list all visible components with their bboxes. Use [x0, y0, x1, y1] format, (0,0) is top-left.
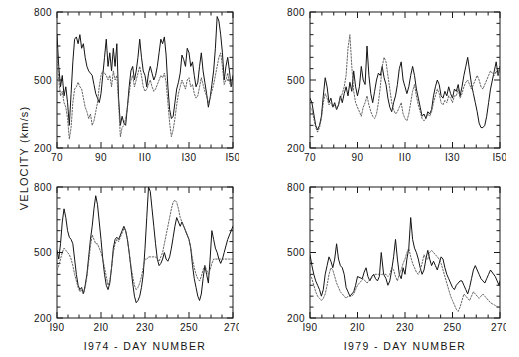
x-tick-label: 230	[136, 322, 154, 333]
panel-top-left: 7090II0I30I50800500200	[23, 6, 239, 168]
y-tick-label: 200	[287, 143, 305, 154]
x-tick-label: 2I0	[93, 322, 108, 333]
panel-bottom-left: I902I0230250270800500200	[23, 181, 239, 338]
panel-bottom-right: I902I0230250270800500200	[276, 181, 506, 338]
x-tick-label: 90	[352, 152, 364, 163]
y-tick-label: 800	[287, 7, 305, 18]
data-layer	[310, 218, 500, 312]
data-layer	[57, 187, 233, 303]
plot-frame	[310, 187, 500, 318]
x-axis-ticks	[310, 12, 500, 148]
y-tick-label: 800	[34, 7, 52, 18]
x-tick-label: I50	[225, 152, 239, 163]
series-line-observed	[57, 17, 233, 126]
y-tick-label: 200	[287, 313, 305, 324]
y-tick-label: 500	[287, 75, 305, 86]
x-tick-label: II0	[139, 152, 151, 163]
x-tick-label: I90	[49, 322, 64, 333]
x-tick-label: I90	[302, 322, 317, 333]
x-tick-label: I50	[492, 152, 506, 163]
y-tick-label: 800	[34, 182, 52, 193]
data-layer	[310, 35, 500, 132]
plot-svg-panel-1979-190-270: I902I0230250270800500200	[276, 181, 506, 338]
x-tick-label: II0	[399, 152, 411, 163]
x-axis-title-1979: I979 - DAY NUMBER	[310, 340, 500, 352]
plot-frame	[310, 12, 500, 148]
y-axis-ticks	[57, 12, 233, 148]
x-tick-label: 230	[396, 322, 414, 333]
y-axis-ticks	[310, 187, 500, 318]
panel-top-right: 7090II0I30I50800500200	[276, 6, 506, 168]
series-line-observed	[310, 218, 500, 297]
y-axis-ticks	[310, 12, 500, 148]
plot-svg-panel-1974-70-150: 7090II0I30I50800500200	[23, 6, 239, 168]
x-axis-ticks	[57, 12, 233, 148]
y-tick-label: 500	[34, 247, 52, 258]
x-tick-label: 250	[180, 322, 198, 333]
x-tick-label: I30	[445, 152, 460, 163]
x-tick-label: 70	[51, 152, 63, 163]
x-tick-label: 270	[491, 322, 506, 333]
x-axis-title-1974: I974 - DAY NUMBER	[57, 340, 233, 352]
x-tick-label: 70	[304, 152, 316, 163]
x-tick-label: 270	[224, 322, 239, 333]
y-tick-label: 500	[287, 247, 305, 258]
data-layer	[57, 17, 233, 139]
x-tick-label: 90	[95, 152, 107, 163]
x-axis-ticks	[310, 187, 500, 318]
figure-root: VELOCITY (km/s) 7090II0I30I50800500200 7…	[0, 0, 519, 357]
plot-svg-panel-1974-190-270: I902I0230250270800500200	[23, 181, 239, 338]
y-tick-label: 200	[34, 143, 52, 154]
series-line-observed	[57, 187, 233, 303]
plot-svg-panel-1979-70-150: 7090II0I30I50800500200	[276, 6, 506, 168]
plot-frame	[57, 12, 233, 148]
x-tick-label: 2I0	[350, 322, 365, 333]
y-tick-label: 200	[34, 313, 52, 324]
y-tick-label: 800	[287, 182, 305, 193]
x-tick-label: 250	[444, 322, 462, 333]
x-tick-label: I30	[181, 152, 196, 163]
y-tick-label: 500	[34, 75, 52, 86]
